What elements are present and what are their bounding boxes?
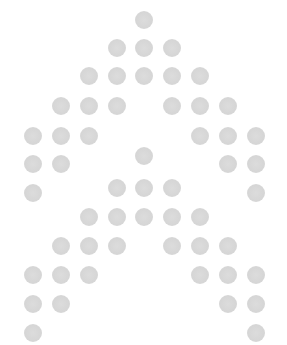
dot-icon <box>24 295 42 313</box>
dot-icon <box>247 184 265 202</box>
dot-icon <box>52 237 70 255</box>
dot-icon <box>108 39 126 57</box>
dot-icon <box>219 155 237 173</box>
dot-icon <box>191 127 209 145</box>
dot-pattern-canvas <box>0 0 287 345</box>
dot-icon <box>80 67 98 85</box>
dot-icon <box>52 155 70 173</box>
dot-icon <box>24 324 42 342</box>
dot-icon <box>219 127 237 145</box>
dot-icon <box>163 67 181 85</box>
dot-icon <box>108 97 126 115</box>
dot-icon <box>80 266 98 284</box>
dot-icon <box>247 324 265 342</box>
dot-icon <box>80 208 98 226</box>
dot-icon <box>24 266 42 284</box>
dot-icon <box>219 97 237 115</box>
dot-icon <box>52 97 70 115</box>
dot-icon <box>108 208 126 226</box>
dot-icon <box>24 127 42 145</box>
dot-icon <box>163 97 181 115</box>
dot-icon <box>135 11 153 29</box>
dot-icon <box>108 67 126 85</box>
dot-icon <box>52 266 70 284</box>
dot-icon <box>191 97 209 115</box>
dot-icon <box>191 67 209 85</box>
dot-icon <box>135 39 153 57</box>
dot-icon <box>219 237 237 255</box>
dot-icon <box>80 127 98 145</box>
dot-icon <box>163 179 181 197</box>
dot-icon <box>108 179 126 197</box>
dot-icon <box>219 266 237 284</box>
dot-icon <box>163 237 181 255</box>
dot-icon <box>191 208 209 226</box>
dot-icon <box>80 237 98 255</box>
dot-icon <box>135 208 153 226</box>
dot-icon <box>219 295 237 313</box>
dot-icon <box>191 237 209 255</box>
dot-icon <box>135 179 153 197</box>
dot-icon <box>108 237 126 255</box>
dot-icon <box>24 155 42 173</box>
dot-icon <box>24 184 42 202</box>
dot-icon <box>80 97 98 115</box>
dot-icon <box>163 39 181 57</box>
dot-icon <box>247 295 265 313</box>
dot-icon <box>163 208 181 226</box>
dot-icon <box>52 127 70 145</box>
dot-icon <box>191 266 209 284</box>
dot-icon <box>247 266 265 284</box>
dot-icon <box>52 295 70 313</box>
dot-icon <box>135 147 153 165</box>
dot-icon <box>247 127 265 145</box>
dot-icon <box>135 67 153 85</box>
dot-icon <box>247 155 265 173</box>
